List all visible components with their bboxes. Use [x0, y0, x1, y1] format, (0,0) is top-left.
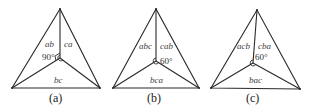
region-label-left: ab — [45, 39, 55, 49]
region-label-bottom: bca — [150, 75, 163, 85]
region-label-bottom: bc — [54, 75, 63, 85]
spoke-left — [211, 63, 253, 88]
angle-label: 60° — [255, 52, 268, 62]
panel-caption: (b) — [147, 91, 161, 105]
region-label-right: cab — [160, 41, 173, 51]
region-label-right: cba — [258, 41, 271, 51]
panel-c: acb cba 60° bac (c) — [210, 9, 301, 105]
panel-caption: (a) — [49, 91, 62, 105]
angle-label: 90° — [42, 52, 55, 62]
region-label-left: abc — [139, 41, 152, 51]
spoke-left — [12, 58, 60, 88]
spoke-right — [60, 58, 100, 88]
region-label-bottom: bac — [249, 75, 262, 85]
panel-b: abc cab 60° bca (b) — [112, 8, 200, 105]
angle-label: 60° — [160, 56, 173, 66]
panel-caption: (c) — [246, 91, 259, 105]
three-triangle-figure: ab ca 90° bc (a) abc cab 60° bca (b) acb… — [0, 0, 313, 109]
region-label-right: ca — [64, 39, 73, 49]
region-label-left: acb — [237, 41, 250, 51]
panel-a: ab ca 90° bc (a) — [11, 8, 101, 105]
